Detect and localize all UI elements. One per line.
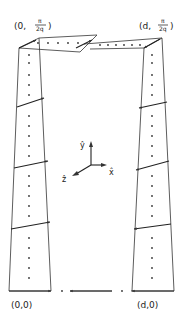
left-slab-dot: [28, 155, 30, 157]
z-axis-arrow: [76, 165, 91, 174]
right-slab-dot: [151, 175, 153, 177]
left-arrow: [14, 161, 48, 168]
left-slab-inner-edge: [39, 38, 51, 291]
right-arrow: [134, 224, 171, 229]
right-slab-dot: [151, 267, 153, 269]
right-slab-dot: [151, 54, 153, 56]
top-bridge-dot: [123, 44, 125, 46]
x-axis-arrowhead: [101, 163, 107, 167]
right-slab-dot: [151, 135, 153, 137]
label-top-left-denominator: 2q: [36, 25, 44, 33]
right-slab-dot: [151, 94, 153, 96]
label-top-left-prefix: (0,: [14, 21, 26, 31]
left-arrow-top: [19, 40, 36, 48]
right-slab-dot: [151, 205, 153, 207]
right-slab-dot: [151, 74, 153, 76]
left-slab-dot: [28, 277, 30, 279]
left-slab-dot: [28, 145, 30, 147]
right-slab-dot: [151, 125, 153, 127]
top-bridge-dot: [77, 42, 79, 44]
left-slab-dots: [28, 54, 30, 279]
right-slab-dot: [151, 195, 153, 197]
x-axis-label: x̂: [109, 167, 114, 177]
label-top-left-numerator: π: [38, 17, 42, 24]
left-slab-dot: [28, 205, 30, 207]
label-top-right-denominator: 2q: [159, 25, 167, 33]
left-slab-dot: [28, 267, 30, 269]
top-bridge-dot: [47, 42, 49, 44]
bottom-line-dot: [61, 290, 63, 292]
top-bridge-dot: [139, 44, 141, 46]
magnetization-arrows: [9, 39, 174, 292]
right-slab-dot: [151, 115, 153, 117]
top-bridge-dot: [107, 44, 109, 46]
right-slab-dot: [151, 257, 153, 259]
left-slab-dot: [28, 125, 30, 127]
left-arrow: [11, 222, 50, 229]
label-top-right-numerator: π: [161, 17, 165, 24]
left-arrow: [17, 98, 44, 107]
left-slab-dot: [28, 94, 30, 96]
right-slab-dots: [151, 54, 153, 279]
label-top-right: (d, π 2q ): [139, 17, 174, 33]
label-top-right-prefix: (d,: [139, 21, 151, 31]
right-slab-dot: [151, 155, 153, 157]
label-top-left: (0, π 2q ): [14, 17, 52, 33]
right-slab-dot: [151, 247, 153, 249]
slab-diagram: ŷ x̂ ẑ (0, π 2q ) (d, π 2q ) (0,0) (d,0): [0, 0, 183, 323]
right-slab-dot: [151, 215, 153, 217]
bottom-line: [9, 290, 174, 292]
z-axis-arrowhead: [72, 171, 79, 176]
right-slab-dot: [151, 185, 153, 187]
right-arrow: [136, 161, 169, 170]
top-bridge-dot: [67, 42, 69, 44]
top-bridge-dot: [37, 42, 39, 44]
right-arrow: [139, 102, 167, 108]
top-bridge-left-lower-edge: [19, 48, 80, 52]
top-bridge-dot: [57, 42, 59, 44]
left-arrow-head: [41, 98, 44, 100]
label-top-right-suffix: ): [170, 21, 174, 31]
label-bottom-right: (d,0): [137, 300, 158, 310]
left-slab-dot: [28, 54, 30, 56]
left-slab-dot: [28, 215, 30, 217]
right-arrow-top: [144, 39, 160, 48]
label-bottom-left: (0,0): [11, 300, 32, 310]
y-axis-arrowhead: [89, 141, 93, 147]
y-axis-label: ŷ: [80, 141, 85, 150]
left-slab-dot: [28, 62, 30, 64]
right-slab-dot: [151, 62, 153, 64]
left-slab-dot: [28, 175, 30, 177]
right-slab-dot: [151, 237, 153, 239]
left-slab-dot: [28, 74, 30, 76]
top-bridge-dot: [115, 44, 117, 46]
top-bridge-right-upper-edge: [84, 38, 162, 44]
left-slab-dot: [28, 247, 30, 249]
left-slab-dot: [28, 185, 30, 187]
top-bridge: [19, 35, 162, 52]
right-slab: [132, 38, 174, 291]
top-bridge-right-lower-edge: [90, 48, 144, 49]
label-top-left-suffix: ): [48, 21, 52, 31]
right-slab-dot: [151, 145, 153, 147]
left-slab-dot: [28, 135, 30, 137]
right-slab-dot: [151, 84, 153, 86]
left-slab-dot: [28, 257, 30, 259]
left-slab-dot: [28, 195, 30, 197]
left-slab-dot: [28, 237, 30, 239]
left-slab-dot: [28, 84, 30, 86]
left-slab-outer-edge: [9, 48, 19, 291]
right-slab-outer-edge: [162, 38, 174, 291]
bottom-line-dot: [121, 290, 123, 292]
top-bridge-dot: [131, 44, 133, 46]
z-axis-label: ẑ: [62, 175, 66, 184]
coordinate-axes: ŷ x̂ ẑ: [62, 141, 114, 184]
right-slab-dot: [151, 277, 153, 279]
top-bridge-dot: [99, 44, 101, 46]
left-slab-dot: [28, 115, 30, 117]
top-bridge-left-upper-edge: [39, 35, 97, 38]
